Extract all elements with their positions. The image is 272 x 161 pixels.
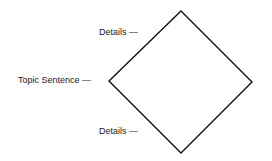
diamond-diagram: Details — Topic Sentence — Details —: [0, 0, 272, 161]
label-top-details: Details —: [99, 27, 138, 38]
label-bottom-details: Details —: [99, 126, 138, 137]
label-topic-sentence: Topic Sentence —: [18, 75, 91, 86]
